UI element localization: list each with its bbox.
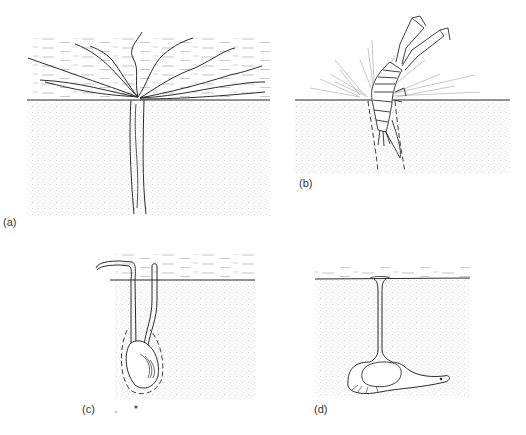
speck [440, 378, 443, 381]
chamber-organism [362, 362, 401, 387]
figure-drawing: (a) [0, 0, 526, 435]
burrowing-organisms-figure: (a) [0, 0, 526, 435]
panel-label-d: (d) [314, 403, 327, 415]
water-column [30, 38, 270, 100]
sediment [295, 100, 510, 173]
speck [115, 411, 117, 413]
panel-a [27, 32, 270, 216]
water-column [115, 254, 255, 280]
water-column [315, 266, 470, 278]
sediment [27, 100, 270, 216]
panel-label-b: (b) [299, 177, 312, 189]
panel-d [315, 266, 470, 397]
panel-label-a: (a) [3, 216, 16, 228]
panel-c [96, 254, 255, 413]
sediment-surface-line [315, 278, 470, 279]
speck [134, 405, 137, 408]
panel-label-c: (c) [82, 403, 95, 415]
panel-b [295, 16, 510, 173]
